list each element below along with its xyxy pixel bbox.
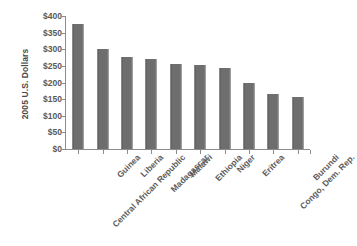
x-axis-tick-mark <box>273 150 274 154</box>
bar-slot <box>90 16 114 149</box>
y-axis-tick-label: $200 <box>31 78 62 87</box>
bar[interactable] <box>243 83 254 149</box>
y-axis-tick-label: $100 <box>31 111 62 120</box>
y-axis-tick-label: $350 <box>31 28 62 37</box>
x-axis-tick-mark <box>225 150 226 154</box>
y-axis-tick-label: $0 <box>31 145 62 154</box>
bar-slot <box>212 16 236 149</box>
x-axis-tick-label: Malawi <box>188 153 214 179</box>
bar[interactable] <box>292 97 303 149</box>
x-axis-tick-mark <box>78 150 79 154</box>
bar[interactable] <box>146 59 157 149</box>
y-axis-tick-mark <box>61 33 65 34</box>
y-axis-tick-label: $250 <box>31 61 62 70</box>
y-axis-tick-mark <box>61 99 65 100</box>
y-axis-tick-mark <box>61 83 65 84</box>
plot-area <box>66 16 310 149</box>
y-axis-title-text: 2005 U.S. Dollars <box>20 49 30 120</box>
x-axis-tick-label: Eritrea <box>261 153 286 178</box>
bar-slot <box>139 16 163 149</box>
bar-slot <box>66 16 90 149</box>
x-axis-tick-label: Guinea <box>115 153 142 180</box>
bar[interactable] <box>195 65 206 149</box>
bar-slot <box>188 16 212 149</box>
y-axis-tick-label: $300 <box>31 45 62 54</box>
bar-slot <box>261 16 285 149</box>
bar-slot <box>237 16 261 149</box>
bar-slot <box>115 16 139 149</box>
bar[interactable] <box>97 49 108 149</box>
x-axis-tick-mark <box>151 150 152 154</box>
y-axis-tick-mark <box>61 116 65 117</box>
bar[interactable] <box>73 24 84 149</box>
y-axis-tick-labels: $0$50$100$150$200$250$300$350$400 <box>31 11 62 153</box>
x-axis-tick-labels: Central African RepublicGuineaLiberiaMad… <box>66 153 310 243</box>
bar[interactable] <box>268 94 279 149</box>
x-axis-tick-mark <box>103 150 104 154</box>
y-axis-tick-mark <box>61 132 65 133</box>
y-axis-tick-label: $400 <box>31 12 62 21</box>
x-axis-tick-mark <box>176 150 177 154</box>
x-axis-tick-mark <box>249 150 250 154</box>
x-axis-tick-mark <box>127 150 128 154</box>
bar[interactable] <box>170 64 181 149</box>
bar[interactable] <box>121 57 132 149</box>
bar-slot <box>286 16 310 149</box>
bar[interactable] <box>219 68 230 149</box>
y-axis-title: 2005 U.S. Dollars <box>18 18 32 150</box>
y-axis-tick-mark <box>61 149 65 150</box>
y-axis-tick-mark <box>61 16 65 17</box>
x-axis-tick-mark <box>200 150 201 154</box>
y-axis-tick-mark <box>61 66 65 67</box>
y-axis-tick-label: $50 <box>31 128 62 137</box>
y-axis-tick-mark <box>61 49 65 50</box>
y-axis-tick-label: $150 <box>31 95 62 104</box>
x-axis-tick-mark <box>310 150 311 154</box>
x-axis-tick-mark <box>298 150 299 154</box>
bar-slot <box>164 16 188 149</box>
